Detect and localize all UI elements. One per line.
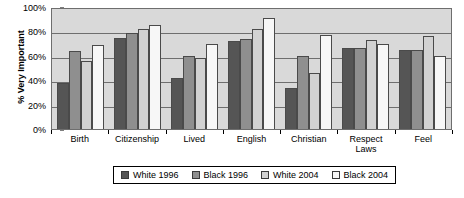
bar [399,50,411,129]
x-axis-label: Birth [51,134,108,154]
legend-item: White 1996 [121,170,179,180]
bar [81,61,93,129]
legend-swatch [261,171,269,179]
legend-swatch [121,171,129,179]
bar-group [166,9,223,129]
x-axis-labels: BirthCitizenshipLivedEnglishChristianRes… [51,134,452,154]
bar [114,38,126,130]
plot-area [51,8,452,130]
legend-swatch [332,171,340,179]
bar [297,56,309,129]
x-axis-tick-mark [452,130,453,134]
y-axis-tick-label: 0% [12,125,46,135]
y-axis-tick-label: 40% [12,76,46,86]
x-axis-label: Christian [280,134,337,154]
bar [183,56,195,129]
legend-item: Black 1996 [192,170,249,180]
bar-group [280,9,337,129]
x-axis-label: RespectLaws [337,134,394,154]
bar [57,83,69,129]
y-axis-tick-label: 80% [12,27,46,37]
bar [285,88,297,129]
legend: White 1996Black 1996White 2004Black 2004 [113,166,396,184]
x-axis-label: English [223,134,280,154]
legend-label: Black 2004 [344,170,389,180]
bar-chart: % Very Important 0%20%40%60%80%100% Birt… [0,0,464,198]
bar [320,35,332,129]
bar [309,73,321,129]
bar [149,25,161,129]
bar [138,29,150,129]
bar [423,36,435,129]
legend-item: White 2004 [261,170,319,180]
bar-group [223,9,280,129]
bar [69,51,81,129]
bar [126,33,138,129]
y-axis-tick-label: 20% [12,101,46,111]
bar-group [337,9,394,129]
bar-group [394,9,451,129]
bar-groups [52,9,451,129]
bar [171,78,183,129]
bar-group [52,9,109,129]
bar [411,50,423,129]
legend-label: White 2004 [273,170,319,180]
y-axis-tick-label: 100% [12,3,46,13]
x-axis-label: Lived [166,134,223,154]
y-axis-tick-labels: 0%20%40%60%80%100% [12,8,46,130]
bar-group [109,9,166,129]
legend-label: White 1996 [133,170,179,180]
bar [195,58,207,129]
bar [366,40,378,129]
legend-label: Black 1996 [204,170,249,180]
bar [342,48,354,129]
bar [354,48,366,129]
bar [240,39,252,129]
bar [206,44,218,129]
bar [263,18,275,129]
bar [228,41,240,129]
legend-swatch [192,171,200,179]
bar [92,45,104,129]
bar [252,29,264,129]
x-axis-label: Citizenship [108,134,165,154]
legend-item: Black 2004 [332,170,389,180]
bar [434,56,446,129]
y-axis-tick-label: 60% [12,52,46,62]
bar [377,44,389,129]
x-axis-label: Feel [395,134,452,154]
